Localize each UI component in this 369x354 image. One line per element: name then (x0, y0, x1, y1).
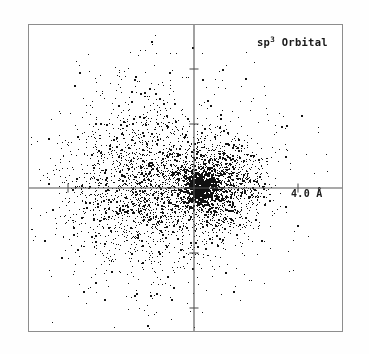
orbital-title-base: sp (257, 36, 270, 48)
plot-frame: sp3 Orbital 4.0 Å (28, 24, 343, 332)
orbital-figure: sp3 Orbital 4.0 Å (0, 0, 369, 354)
scatter-plot-canvas (29, 25, 343, 332)
orbital-title-label: sp3 Orbital (257, 37, 328, 48)
scale-bar-label: 4.0 Å (291, 189, 323, 199)
orbital-title-suffix: Orbital (275, 36, 328, 48)
